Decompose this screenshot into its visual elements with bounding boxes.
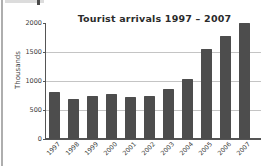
y-tick-label: 1000 xyxy=(16,78,42,85)
y-tick xyxy=(43,139,46,140)
y-tick xyxy=(43,52,46,53)
y-tick-label: 2000 xyxy=(16,20,42,27)
cropped-text-remnant-mark xyxy=(37,0,40,5)
y-tick-label: 0 xyxy=(16,136,42,143)
y-tick-label: 1500 xyxy=(16,49,42,56)
bar-1998 xyxy=(68,99,79,138)
bar-2007 xyxy=(239,23,250,138)
bar-2002 xyxy=(144,96,155,138)
bar-2004 xyxy=(182,79,193,138)
bar-2000 xyxy=(106,94,117,139)
y-tick xyxy=(43,23,46,24)
bar-2003 xyxy=(163,89,174,139)
bar-2005 xyxy=(201,49,212,138)
chart-title: Tourist arrivals 1997 – 2007 xyxy=(45,13,264,24)
y-tick-label: 500 xyxy=(16,107,42,114)
x-tick-label: 1997 xyxy=(38,141,61,164)
chart: Tourist arrivals 1997 – 2007 Thousands 0… xyxy=(0,0,266,166)
bar-1999 xyxy=(87,96,98,139)
y-tick xyxy=(43,110,46,111)
bar-2001 xyxy=(125,97,136,139)
bar-1997 xyxy=(49,92,60,138)
page-edge-line xyxy=(1,0,3,166)
y-tick xyxy=(43,81,46,82)
bar-2006 xyxy=(220,36,231,139)
